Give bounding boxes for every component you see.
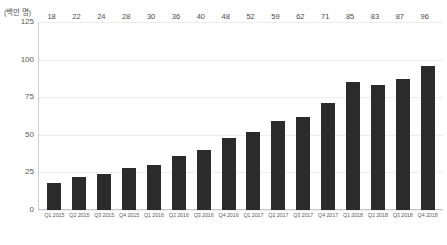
x-axis-tick-label: Q1 2016 [142, 212, 167, 218]
plot-area: 0255075100125 18222428303640485259627185… [39, 22, 443, 210]
x-axis-label-slot: Q1 2016 [142, 212, 167, 218]
y-axis-tick-label: 50 [25, 131, 34, 139]
y-axis-tick-label: 100 [21, 56, 34, 64]
bar-value-label: 52 [246, 13, 254, 21]
bar: 62 [296, 117, 310, 210]
x-axis-label-slot: Q1 2015 [42, 212, 67, 218]
bar-value-label: 85 [346, 13, 354, 21]
bar: 52 [246, 132, 260, 210]
bar: 87 [396, 79, 410, 210]
x-axis-label-slot: Q3 2016 [191, 212, 216, 218]
bar-value-label: 40 [197, 13, 205, 21]
bar-slot: 24 [92, 22, 117, 210]
y-axis-tick-label: 25 [25, 168, 34, 176]
x-axis-label-slot: Q4 2015 [117, 212, 142, 218]
bar-value-label: 83 [371, 13, 379, 21]
x-axis-label-slot: Q2 2016 [166, 212, 191, 218]
bar: 24 [97, 174, 111, 210]
bar-slot: 96 [415, 22, 440, 210]
bars-series: 18222428303640485259627185838796 [39, 22, 443, 210]
x-axis-label-slot: Q2 2015 [67, 212, 92, 218]
bar: 36 [172, 156, 186, 210]
bar: 71 [321, 103, 335, 210]
x-axis-label-slot: Q1 2017 [241, 212, 266, 218]
bar-slot: 40 [191, 22, 216, 210]
bar-slot: 83 [365, 22, 390, 210]
x-axis-tick-label: Q1 2017 [241, 212, 266, 218]
bar: 96 [421, 66, 435, 210]
bar-slot: 87 [390, 22, 415, 210]
y-axis-unit-label: (백만 명) [4, 6, 31, 17]
bar-slot: 18 [42, 22, 67, 210]
bar: 30 [147, 165, 161, 210]
x-axis-label-slot: Q4 2016 [216, 212, 241, 218]
bar: 40 [197, 150, 211, 210]
x-axis-tick-label: Q3 2018 [390, 212, 415, 218]
bar: 83 [371, 85, 385, 210]
x-axis-tick-label: Q4 2015 [117, 212, 142, 218]
bar-value-label: 62 [296, 13, 304, 21]
x-axis-tick-label: Q2 2017 [266, 212, 291, 218]
bar-value-label: 24 [97, 13, 105, 21]
bar-slot: 28 [117, 22, 142, 210]
bar-value-label: 87 [396, 13, 404, 21]
bar: 48 [222, 138, 236, 210]
x-axis-labels: Q1 2015Q2 2015Q3 2015Q4 2015Q1 2016Q2 20… [39, 212, 443, 218]
gridline: 0 [39, 210, 443, 211]
bar: 85 [346, 82, 360, 210]
x-axis-tick-label: Q2 2016 [166, 212, 191, 218]
x-axis-tick-label: Q4 2017 [316, 212, 341, 218]
bar-value-label: 30 [147, 13, 155, 21]
bar-slot: 62 [291, 22, 316, 210]
bar-value-label: 36 [172, 13, 180, 21]
bar-slot: 36 [166, 22, 191, 210]
bar-value-label: 59 [271, 13, 279, 21]
bar-slot: 48 [216, 22, 241, 210]
y-axis-tick-label: 125 [21, 18, 34, 26]
x-axis-label-slot: Q3 2018 [390, 212, 415, 218]
bar-value-label: 28 [122, 13, 130, 21]
bar: 18 [47, 183, 61, 210]
bar-slot: 85 [341, 22, 366, 210]
y-axis-tick-label: 0 [30, 206, 34, 214]
bar-slot: 52 [241, 22, 266, 210]
x-axis-label-slot: Q3 2017 [291, 212, 316, 218]
x-axis-label-slot: Q2 2017 [266, 212, 291, 218]
x-axis-label-slot: Q1 2018 [341, 212, 366, 218]
x-axis-tick-label: Q2 2015 [67, 212, 92, 218]
bar: 22 [72, 177, 86, 210]
x-axis-tick-label: Q3 2015 [92, 212, 117, 218]
bar-slot: 22 [67, 22, 92, 210]
x-axis-tick-label: Q4 2018 [415, 212, 440, 218]
bar-value-label: 71 [321, 13, 329, 21]
x-axis-label-slot: Q4 2017 [316, 212, 341, 218]
bar-value-label: 22 [72, 13, 80, 21]
bar-chart: (백만 명) 0255075100125 1822242830364048525… [0, 0, 447, 245]
bar-slot: 30 [142, 22, 167, 210]
x-axis-tick-label: Q2 2018 [365, 212, 390, 218]
x-axis-label-slot: Q2 2018 [365, 212, 390, 218]
bar-slot: 71 [316, 22, 341, 210]
bar-value-label: 18 [47, 13, 55, 21]
x-axis-tick-label: Q3 2017 [291, 212, 316, 218]
bar: 28 [122, 168, 136, 210]
bar-value-label: 96 [421, 13, 429, 21]
x-axis-tick-label: Q1 2018 [341, 212, 366, 218]
x-axis-tick-label: Q1 2015 [42, 212, 67, 218]
x-axis-tick-label: Q3 2016 [191, 212, 216, 218]
bar-value-label: 48 [222, 13, 230, 21]
bar: 59 [271, 121, 285, 210]
bar-slot: 59 [266, 22, 291, 210]
x-axis-label-slot: Q3 2015 [92, 212, 117, 218]
x-axis-tick-label: Q4 2016 [216, 212, 241, 218]
y-axis-tick-label: 75 [25, 93, 34, 101]
x-axis-label-slot: Q4 2018 [415, 212, 440, 218]
